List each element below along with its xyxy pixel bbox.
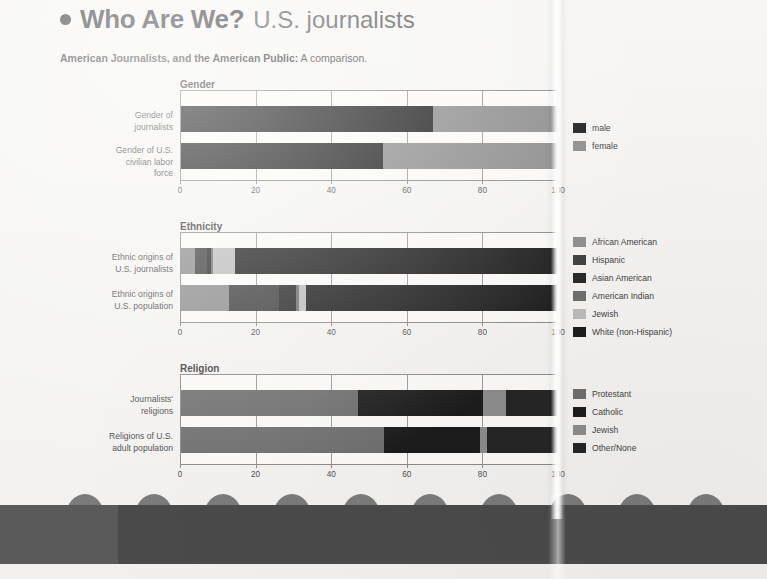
legend-item-religion-2[interactable]: Jewish [573, 421, 636, 439]
footer-band-left-highlight [0, 505, 118, 564]
legend-swatch-icon [573, 389, 586, 399]
bar-segment-religion-0-3 [506, 390, 558, 416]
legend-label: American Indian [592, 291, 654, 301]
legend-item-religion-3[interactable]: Other/None [573, 439, 636, 457]
xtick-60 [407, 181, 408, 184]
section-subhead: American Journalists, and the American P… [60, 52, 367, 64]
xtick-label-80: 80 [478, 186, 487, 195]
bar-segment-religion-0-1 [358, 390, 483, 416]
legend-label: Jewish [592, 309, 618, 319]
legend-item-religion-1[interactable]: Catholic [573, 403, 636, 421]
xtick-100 [558, 181, 559, 184]
bar-segment-gender-0-1 [433, 106, 558, 132]
row-label-line: U.S. journalists [95, 264, 173, 276]
xtick-60 [407, 323, 408, 326]
row-label-line: Religions of U.S. [95, 431, 173, 443]
footer-band-underline [0, 564, 767, 579]
legend-item-gender-1[interactable]: female [573, 137, 618, 155]
row-label-line: Gender of [95, 110, 173, 122]
row-label-ethnicity-0: Ethnic origins ofU.S. journalists [95, 252, 173, 275]
row-label-line: Journalists' [95, 394, 173, 406]
xtick-label-80: 80 [478, 328, 487, 337]
xtick-label-20: 20 [251, 186, 260, 195]
chart-title-gender: Gender [180, 79, 215, 90]
chart-title-religion: Religion [180, 363, 219, 374]
bar-segment-ethnicity-1-4 [299, 285, 306, 311]
xtick-label-40: 40 [327, 328, 336, 337]
bar-segment-religion-0-2 [483, 390, 506, 416]
bar-segment-gender-0-0 [181, 106, 433, 132]
plot-area-ethnicity [180, 232, 558, 323]
bar-segment-ethnicity-1-1 [229, 285, 279, 311]
bar-segment-ethnicity-0-1 [195, 248, 207, 274]
legend-swatch-icon [573, 123, 586, 133]
row-label-ethnicity-1: Ethnic origins ofU.S. population [95, 289, 173, 312]
legend-label: female [592, 141, 618, 151]
chart-title-ethnicity: Ethnicity [180, 221, 222, 232]
legend-label: Asian American [592, 273, 652, 283]
legend-label: Other/None [592, 443, 636, 453]
legend-item-ethnicity-2[interactable]: Asian American [573, 269, 672, 287]
xtick-100 [558, 323, 559, 326]
subhead-bold-text: American Journalists, and the American P… [60, 52, 298, 64]
legend-swatch-icon [573, 407, 586, 417]
bar-segment-ethnicity-1-5 [306, 285, 558, 311]
xtick-label-40: 40 [327, 186, 336, 195]
legend-swatch-icon [573, 443, 586, 453]
bar-ethnicity-row-1 [181, 285, 558, 311]
legend-label: male [592, 123, 611, 133]
xtick-60 [407, 465, 408, 468]
xtick-label-60: 60 [402, 470, 411, 479]
row-label-line: Ethnic origins of [95, 252, 173, 264]
legend-swatch-icon [573, 237, 586, 247]
bar-segment-gender-1-0 [181, 143, 383, 169]
row-label-line: religions [95, 406, 173, 418]
bar-segment-ethnicity-0-4 [213, 248, 236, 274]
xtick-label-40: 40 [327, 470, 336, 479]
row-label-line: U.S. population [95, 301, 173, 313]
xtick-label-0: 0 [178, 186, 183, 195]
legend-swatch-icon [573, 327, 586, 337]
bar-segment-ethnicity-1-2 [279, 285, 295, 311]
legend-item-gender-0[interactable]: male [573, 119, 618, 137]
xtick-label-60: 60 [402, 186, 411, 195]
xtick-20 [256, 181, 257, 184]
legend-ethnicity: African AmericanHispanicAsian AmericanAm… [573, 233, 672, 341]
bar-gender-row-1 [181, 143, 558, 169]
bar-segment-ethnicity-1-0 [181, 285, 229, 311]
row-label-line: civilian labor [95, 157, 173, 169]
xtick-80 [482, 181, 483, 184]
legend-item-ethnicity-1[interactable]: Hispanic [573, 251, 672, 269]
bar-segment-ethnicity-0-5 [235, 248, 558, 274]
page-title: Who Are We? [80, 4, 244, 35]
xtick-label-100: 100 [551, 328, 565, 337]
xtick-0 [180, 323, 181, 326]
xtick-label-20: 20 [251, 470, 260, 479]
bar-ethnicity-row-0 [181, 248, 558, 274]
page-canvas: Who Are We? U.S. journalists American Jo… [0, 0, 767, 579]
row-label-line: force [95, 168, 173, 180]
plot-area-religion [180, 374, 558, 465]
xtick-0 [180, 181, 181, 184]
legend-item-ethnicity-4[interactable]: Jewish [573, 305, 672, 323]
page-header: Who Are We? U.S. journalists [60, 4, 415, 35]
legend-swatch-icon [573, 141, 586, 151]
bar-religion-row-1 [181, 427, 558, 453]
legend-swatch-icon [573, 309, 586, 319]
legend-swatch-icon [573, 291, 586, 301]
xtick-40 [331, 323, 332, 326]
legend-item-ethnicity-5[interactable]: White (non-Hispanic) [573, 323, 672, 341]
legend-label: Hispanic [592, 255, 625, 265]
xtick-label-20: 20 [251, 328, 260, 337]
legend-item-ethnicity-0[interactable]: African American [573, 233, 672, 251]
xtick-40 [331, 181, 332, 184]
xtick-label-100: 100 [551, 470, 565, 479]
legend-item-religion-0[interactable]: Protestant [573, 385, 636, 403]
legend-item-ethnicity-3[interactable]: American Indian [573, 287, 672, 305]
plot-area-gender [180, 90, 558, 181]
legend-label: Jewish [592, 425, 618, 435]
xtick-label-0: 0 [178, 328, 183, 337]
legend-label: Catholic [592, 407, 623, 417]
legend-label: Protestant [592, 389, 631, 399]
legend-label: African American [592, 237, 657, 247]
